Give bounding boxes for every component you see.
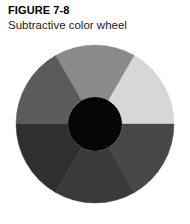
color-wheel-svg: [0, 0, 190, 224]
color-wheel-figure: [0, 0, 190, 224]
figure-container: FIGURE 7-8 Subtractive color wheel: [0, 0, 190, 224]
color-wheel-hub: [68, 97, 122, 151]
